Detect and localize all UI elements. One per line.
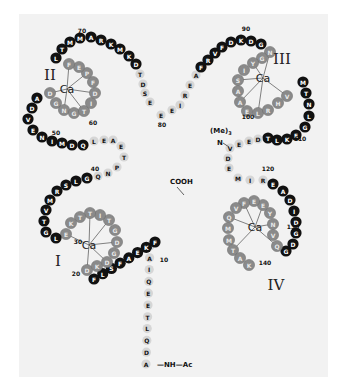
- svg-text:E: E: [188, 82, 192, 89]
- svg-text:F: F: [153, 239, 157, 246]
- residue-110: T: [300, 87, 311, 98]
- residue-27: I: [94, 209, 105, 220]
- svg-text:M: M: [226, 237, 232, 244]
- residue-61: G: [68, 107, 79, 118]
- calcium-label: Ca: [82, 239, 96, 252]
- residue-119: E: [244, 136, 253, 145]
- svg-text:G: G: [294, 230, 299, 237]
- residue-1: A: [141, 359, 150, 368]
- position-label-40: 40: [91, 165, 99, 172]
- residue-96: G: [255, 38, 266, 49]
- svg-text:Y: Y: [267, 210, 273, 217]
- svg-text:G: G: [259, 41, 264, 48]
- position-label-110: 110: [294, 135, 307, 142]
- svg-text:A: A: [144, 361, 149, 368]
- svg-text:M: M: [300, 79, 306, 86]
- residue-33: G: [40, 226, 51, 237]
- residue-67: E: [73, 61, 84, 72]
- residue-71: M: [64, 36, 75, 47]
- residue-126: R: [258, 175, 267, 184]
- svg-text:D: D: [93, 90, 98, 97]
- svg-text:A: A: [238, 255, 243, 262]
- residue-136: V: [267, 229, 278, 240]
- svg-text:K: K: [109, 41, 114, 48]
- residue-123: E: [224, 163, 233, 172]
- residue-94: K: [235, 34, 246, 45]
- residue-93: D: [225, 36, 236, 47]
- svg-text:A: A: [147, 255, 152, 262]
- residue-140: E: [248, 195, 259, 206]
- svg-text:K: K: [144, 244, 149, 251]
- residue-125: I: [245, 175, 254, 184]
- position-label-60: 60: [89, 119, 97, 126]
- svg-text:E: E: [146, 302, 150, 309]
- residue-147: A: [234, 252, 245, 263]
- residue-137: N: [267, 218, 278, 229]
- svg-text:E: E: [170, 107, 174, 114]
- svg-text:L: L: [307, 113, 311, 120]
- residue-54: E: [27, 124, 38, 135]
- svg-text:L: L: [74, 178, 78, 185]
- svg-text:E: E: [252, 198, 256, 205]
- svg-text:N: N: [267, 49, 272, 56]
- methylation-label: (Me)3: [210, 127, 232, 136]
- svg-text:D: D: [229, 39, 234, 46]
- svg-text:A: A: [281, 188, 286, 195]
- svg-text:M: M: [47, 197, 53, 204]
- svg-text:N: N: [105, 170, 110, 177]
- svg-text:E: E: [247, 138, 251, 145]
- svg-text:S: S: [236, 77, 240, 84]
- residue-129: D: [284, 194, 295, 205]
- residue-87: E: [185, 80, 194, 89]
- svg-text:E: E: [227, 165, 231, 172]
- residue-106: R: [262, 104, 273, 115]
- residue-2: D: [142, 348, 151, 357]
- residue-32: L: [50, 232, 61, 243]
- residue-44: T: [119, 152, 128, 161]
- svg-text:I: I: [99, 212, 101, 219]
- residue-124: M: [233, 173, 242, 182]
- svg-text:M: M: [59, 140, 65, 147]
- residue-80: D: [138, 79, 147, 88]
- residue-22: D: [101, 256, 112, 267]
- domain-label-IV: IV: [268, 276, 286, 294]
- svg-text:A: A: [194, 72, 199, 79]
- svg-text:F: F: [91, 79, 95, 86]
- svg-text:F: F: [92, 276, 96, 283]
- svg-text:I: I: [51, 138, 53, 145]
- svg-text:D: D: [48, 90, 53, 97]
- residue-55: V: [22, 113, 33, 124]
- calcium-label: Ca: [60, 83, 74, 96]
- svg-text:G: G: [284, 248, 289, 255]
- residue-112: L: [303, 110, 314, 121]
- residue-39: L: [70, 175, 81, 186]
- position-label-140: 140: [259, 259, 272, 266]
- svg-text:I: I: [90, 100, 92, 107]
- svg-text:D: D: [141, 81, 146, 88]
- residue-100: I: [238, 64, 249, 75]
- residue-53: N: [36, 131, 47, 142]
- svg-text:L: L: [145, 325, 149, 332]
- svg-text:V: V: [44, 207, 49, 214]
- svg-text:D: D: [288, 197, 293, 204]
- svg-text:F: F: [67, 61, 71, 68]
- svg-text:Q: Q: [144, 337, 149, 344]
- residue-7: E: [144, 289, 153, 298]
- residue-113: G: [299, 121, 310, 132]
- svg-text:A: A: [236, 88, 241, 95]
- residue-56: D: [26, 102, 37, 113]
- residue-21: K: [91, 260, 102, 271]
- svg-text:I: I: [293, 208, 295, 215]
- svg-text:A: A: [111, 137, 116, 144]
- residue-120: E: [234, 139, 243, 148]
- residue-34: T: [38, 215, 49, 226]
- svg-text:F: F: [118, 260, 122, 267]
- svg-text:G: G: [85, 175, 90, 182]
- svg-text:D: D: [134, 61, 139, 68]
- svg-text:E: E: [146, 290, 150, 297]
- residue-83: E: [156, 110, 165, 119]
- residue-102: A: [232, 85, 243, 96]
- svg-text:G: G: [44, 229, 49, 236]
- residue-42: N: [103, 168, 112, 177]
- residue-121: V: [225, 143, 234, 152]
